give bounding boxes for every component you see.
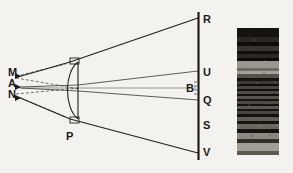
spectrum-grain — [273, 93, 275, 95]
ray-m-to-lens-top — [18, 62, 70, 77]
spectrum-grain — [266, 103, 268, 105]
ray-a-to-lens-lower — [20, 88, 78, 91]
spectrum-band — [237, 61, 279, 68]
label-u: U — [203, 66, 211, 78]
spectrum-grain — [244, 145, 246, 147]
dashed-ray-n-axis — [16, 88, 80, 94]
spectrum-grain — [259, 113, 261, 115]
ray-lens-to-q — [78, 91, 198, 100]
label-b: B — [186, 82, 194, 94]
spectrum-grain — [246, 61, 248, 63]
label-p: P — [66, 130, 73, 142]
spectrum-grain — [268, 146, 270, 148]
figure-root: M A N P R U B Q S V — [0, 0, 293, 173]
spectrum-grain — [271, 50, 273, 52]
marginal-rays — [18, 18, 198, 153]
label-q: Q — [203, 94, 212, 106]
spectrum-grain — [243, 30, 245, 32]
spectrum-grain — [264, 60, 266, 62]
ray-lens-bottom-to-v — [70, 119, 198, 153]
spectrum-grain — [256, 82, 258, 84]
ray-a-to-lens-upper — [20, 85, 78, 87]
spectrum-grain — [249, 92, 251, 94]
spectrum-grain — [251, 135, 253, 137]
label-s: S — [203, 119, 210, 131]
label-n: N — [8, 88, 16, 100]
spectrum-grain — [258, 125, 260, 127]
label-r: R — [203, 13, 211, 25]
label-v: V — [203, 146, 211, 158]
spectrum-grain — [241, 114, 243, 116]
spectrum-grain — [276, 124, 278, 126]
spectrum-grain — [248, 104, 250, 106]
spectrum-grain — [278, 40, 279, 42]
spectrum-grain — [238, 83, 240, 85]
spectrum-grain — [261, 29, 263, 31]
spectrum-grain — [239, 71, 241, 73]
spectrum-grain — [254, 39, 256, 41]
ray-lens-to-u — [78, 71, 198, 85]
spectrum-photograph — [237, 28, 279, 155]
inner-rays — [20, 71, 198, 100]
spectrum-grain — [237, 28, 239, 30]
spectrum-grain — [253, 51, 255, 53]
ray-n-to-lens-bottom — [18, 97, 70, 119]
dashed-ray-m-axis — [16, 78, 80, 89]
spectrum-grain — [263, 72, 265, 74]
spectrum-grain — [269, 134, 271, 136]
ray-lens-top-to-r — [70, 18, 198, 62]
spectrum-grain — [274, 81, 276, 83]
